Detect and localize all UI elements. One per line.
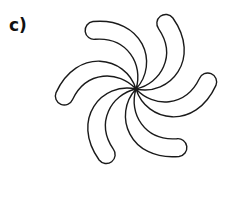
pinwheel-arm <box>82 5 162 95</box>
pinwheel-arm <box>53 59 137 106</box>
pinwheel-arm <box>111 83 191 173</box>
pinwheel <box>49 0 222 180</box>
pinwheel-arm <box>135 72 219 119</box>
pinwheel-figure <box>0 0 227 206</box>
